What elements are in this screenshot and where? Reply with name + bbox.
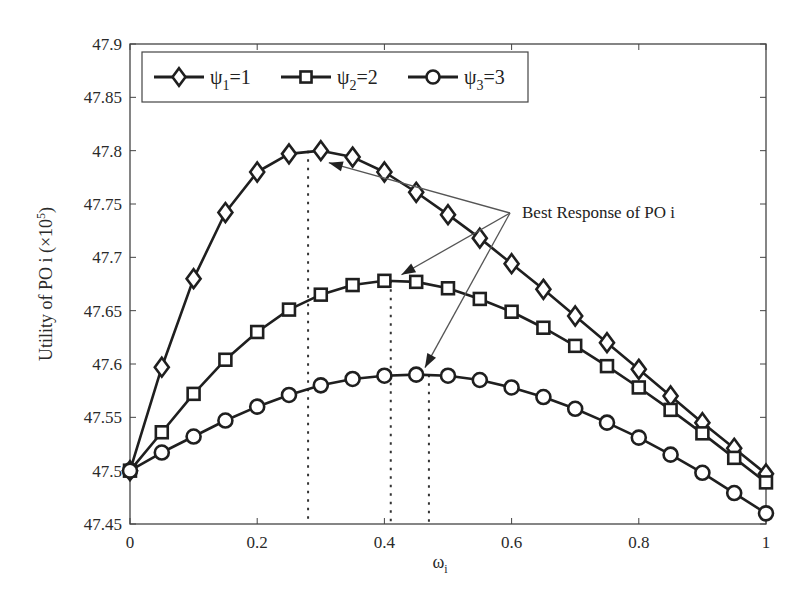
- square-marker-icon: [300, 71, 311, 82]
- x-tick-label: 0.4: [374, 533, 396, 552]
- diamond-marker-icon: [155, 358, 169, 377]
- y-tick-label: 47.7: [92, 248, 122, 267]
- diamond-marker-icon: [536, 280, 550, 299]
- axes: 00.20.40.60.8147.4547.547.5547.647.6547.…: [84, 35, 771, 552]
- arrowhead-icon: [329, 162, 344, 172]
- series-circle: [123, 368, 773, 521]
- circle-marker-icon: [759, 506, 773, 520]
- square-marker-icon: [728, 452, 740, 464]
- y-tick-label: 47.9: [92, 35, 122, 54]
- diamond-marker-icon: [664, 387, 678, 406]
- diamond-marker-icon: [568, 307, 582, 326]
- y-tick-label: 47.5: [92, 462, 122, 481]
- circle-marker-icon: [314, 378, 328, 392]
- circle-marker-icon: [409, 368, 423, 382]
- circle-marker-icon: [727, 486, 741, 500]
- square-marker-icon: [251, 326, 263, 338]
- diamond-marker-icon: [600, 333, 614, 352]
- circle-marker-icon: [441, 369, 455, 383]
- arrowhead-icon: [425, 353, 436, 368]
- y-tick-label: 47.75: [84, 195, 122, 214]
- x-axis-label: ωi: [432, 552, 448, 576]
- circle-marker-icon: [473, 373, 487, 387]
- diamond-marker-icon: [346, 148, 360, 167]
- x-tick-label: 0.2: [247, 533, 268, 552]
- circle-marker-icon: [282, 388, 296, 402]
- diamond-marker-icon: [187, 269, 201, 288]
- y-tick-label: 47.6: [92, 355, 122, 374]
- x-tick-label: 1: [762, 533, 771, 552]
- circle-marker-icon: [632, 431, 646, 445]
- square-marker-icon: [442, 282, 454, 294]
- square-marker-icon: [347, 279, 359, 291]
- y-tick-label: 47.45: [84, 515, 122, 534]
- circle-marker-icon: [250, 400, 264, 414]
- utility-line-chart: 00.20.40.60.8147.4547.547.5547.647.6547.…: [0, 0, 808, 615]
- diamond-marker-icon: [632, 360, 646, 379]
- annotation-best-response: Best Response of PO i: [329, 162, 675, 368]
- y-tick-label: 47.8: [92, 142, 122, 161]
- y-axis-label: Utility of PO i (×105): [34, 207, 57, 361]
- annotation-text: Best Response of PO i: [522, 203, 675, 222]
- circle-marker-icon: [695, 466, 709, 480]
- legend: ψ1=1ψ2=2ψ3=3: [142, 52, 528, 102]
- square-marker-icon: [760, 476, 772, 488]
- circle-marker-icon: [218, 414, 232, 428]
- best-response-guides: [308, 151, 429, 524]
- square-marker-icon: [156, 426, 168, 438]
- square-marker-icon: [569, 340, 581, 352]
- annotation-arrow-line: [425, 213, 510, 368]
- square-marker-icon: [283, 304, 295, 316]
- circle-marker-icon: [505, 380, 519, 394]
- x-tick-label: 0: [126, 533, 135, 552]
- diamond-marker-icon: [505, 254, 519, 273]
- y-tick-label: 47.55: [84, 408, 122, 427]
- square-marker-icon: [410, 276, 422, 288]
- x-tick-label: 0.6: [501, 533, 522, 552]
- square-marker-icon: [219, 354, 231, 366]
- circle-marker-icon: [664, 448, 678, 462]
- diamond-marker-icon: [282, 144, 296, 163]
- square-marker-icon: [665, 404, 677, 416]
- circle-marker-icon: [600, 416, 614, 430]
- y-tick-label: 47.85: [84, 88, 122, 107]
- circle-marker-icon: [123, 464, 137, 478]
- square-marker-icon: [315, 289, 327, 301]
- circle-marker-icon: [155, 446, 169, 460]
- diamond-marker-icon: [441, 205, 455, 224]
- square-marker-icon: [633, 382, 645, 394]
- series-lines: [123, 141, 773, 520]
- circle-marker-icon: [427, 71, 440, 84]
- circle-marker-icon: [187, 430, 201, 444]
- square-marker-icon: [601, 360, 613, 372]
- y-tick-label: 47.65: [84, 302, 122, 321]
- circle-marker-icon: [536, 390, 550, 404]
- x-tick-label: 0.8: [628, 533, 649, 552]
- square-marker-icon: [378, 275, 390, 287]
- arrowhead-icon: [401, 264, 416, 275]
- circle-marker-icon: [377, 369, 391, 383]
- square-marker-icon: [506, 306, 518, 318]
- square-marker-icon: [188, 388, 200, 400]
- square-marker-icon: [537, 322, 549, 334]
- diamond-marker-icon: [473, 229, 487, 248]
- circle-marker-icon: [346, 372, 360, 386]
- diamond-marker-icon: [314, 141, 328, 160]
- square-marker-icon: [696, 427, 708, 439]
- series-diamond: [123, 141, 773, 483]
- square-marker-icon: [474, 293, 486, 305]
- circle-marker-icon: [568, 402, 582, 416]
- annotation-arrow-line: [329, 163, 510, 213]
